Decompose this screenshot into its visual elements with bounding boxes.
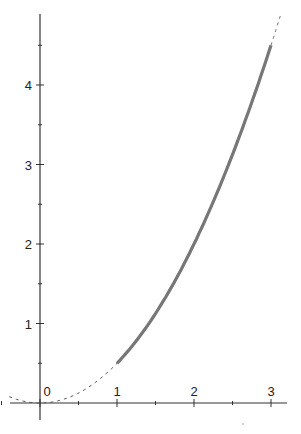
stray-dot: [242, 423, 244, 425]
function-plot: 01231234: [0, 0, 301, 434]
solid-curve-segment: [117, 45, 271, 363]
dashed-curve-left: [9, 363, 117, 403]
x-tick-label: 2: [190, 384, 197, 399]
tick-labels: 01231234: [25, 78, 275, 399]
x-tick-label: 0: [43, 384, 50, 399]
x-tick-label: 1: [113, 384, 120, 399]
axes: [2, 14, 288, 420]
y-tick-label: 2: [25, 237, 32, 252]
dashed-curve-right: [271, 16, 280, 45]
x-tick-label: 3: [267, 384, 274, 399]
y-tick-label: 3: [25, 158, 32, 173]
y-tick-label: 4: [25, 78, 32, 93]
y-tick-label: 1: [25, 317, 32, 332]
curves: [9, 16, 280, 425]
